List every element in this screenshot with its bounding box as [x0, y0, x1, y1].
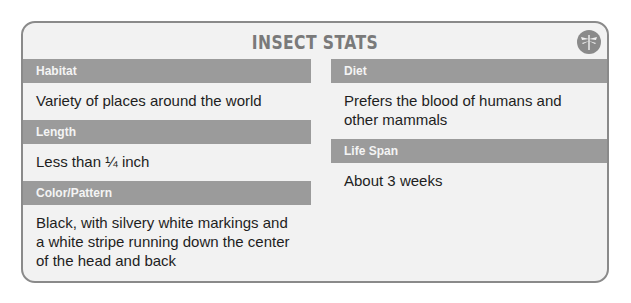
color-pattern-label: Color/Pattern — [23, 181, 311, 205]
left-column: Habitat Variety of places around the wor… — [23, 59, 311, 280]
color-pattern-value: Black, with silvery white markings and a… — [23, 205, 311, 280]
dragonfly-icon — [577, 30, 601, 54]
diet-value: Prefers the blood of humans and other ma… — [331, 83, 609, 139]
habitat-label: Habitat — [23, 59, 311, 83]
life-span-value: About 3 weeks — [331, 163, 609, 200]
length-label: Length — [23, 120, 311, 144]
diet-label: Diet — [331, 59, 609, 83]
length-value: Less than ¼ inch — [23, 144, 311, 181]
insect-stats-card: INSECT STATS Habitat Variety of places a… — [21, 21, 609, 283]
card-title: INSECT STATS — [76, 23, 555, 61]
habitat-value: Variety of places around the world — [23, 83, 311, 120]
right-column: Diet Prefers the blood of humans and oth… — [331, 59, 609, 200]
life-span-label: Life Span — [331, 139, 609, 163]
